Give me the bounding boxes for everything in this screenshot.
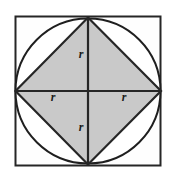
radius-label-bottom: r <box>79 120 84 134</box>
figure-svg: r r r r <box>0 0 173 180</box>
geometry-diagram: r r r r <box>0 0 173 180</box>
radius-label-left: r <box>51 90 56 104</box>
radius-label-right: r <box>122 90 127 104</box>
radius-label-top: r <box>79 47 84 61</box>
